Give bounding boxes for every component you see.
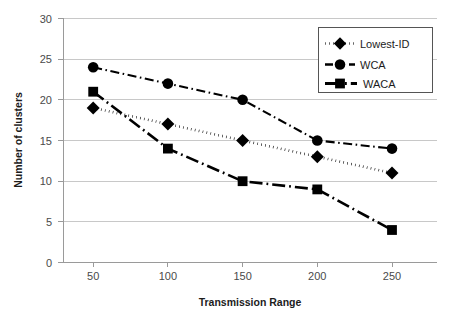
legend: Lowest-ID WCA WACA (319, 28, 433, 93)
series-wca-point-150 (237, 95, 248, 106)
series-waca-point-50 (88, 87, 98, 97)
x-tick-label-50: 50 (87, 270, 99, 282)
series-wca-point-100 (163, 78, 174, 89)
y-tick-label-5: 5 (46, 216, 52, 228)
y-tick-label-25: 25 (40, 53, 52, 65)
series-waca-point-150 (238, 176, 248, 186)
legend-label-waca: WACA (363, 78, 396, 90)
legend-swatch-waca-marker (335, 79, 345, 89)
y-tick-label-20: 20 (40, 94, 52, 106)
x-tick-label-150: 150 (233, 270, 251, 282)
series-waca-point-250 (387, 225, 397, 235)
x-axis-title: Transmission Range (199, 296, 302, 308)
y-tick-label-15: 15 (40, 135, 52, 147)
series-wca-point-50 (88, 62, 99, 73)
line-chart: 30 25 20 15 10 5 0 50 100 150 200 250 Tr… (0, 0, 454, 321)
y-tickmarks (58, 19, 63, 263)
series-wca-point-250 (387, 143, 398, 154)
y-tick-label-0: 0 (46, 257, 52, 269)
x-tick-label-100: 100 (159, 270, 177, 282)
x-tick-label-200: 200 (308, 270, 326, 282)
legend-swatch-wca-marker (335, 59, 346, 70)
legend-label-lowest-id: Lowest-ID (360, 38, 410, 50)
y-axis-title: Number of clusters (12, 92, 24, 188)
series-wca-point-200 (312, 135, 323, 146)
x-tick-label-250: 250 (383, 270, 401, 282)
y-tick-label-30: 30 (40, 13, 52, 25)
series-waca-point-200 (312, 185, 322, 195)
legend-label-wca: WCA (360, 59, 386, 71)
series-waca-point-100 (163, 144, 173, 154)
y-tick-label-10: 10 (40, 175, 52, 187)
chart-container: 30 25 20 15 10 5 0 50 100 150 200 250 Tr… (0, 0, 454, 321)
